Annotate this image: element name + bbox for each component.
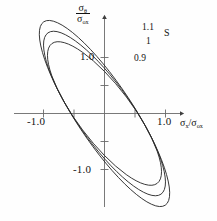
- plot-canvas: [0, 0, 217, 221]
- axis-group: [14, 17, 182, 207]
- x-tick-label-neg-1: -1.0: [27, 116, 45, 127]
- series-symbol-label: S: [164, 28, 170, 38]
- x-axis-title: σx/σox: [180, 118, 203, 128]
- y-axis-title: σθ σox: [76, 3, 90, 24]
- y-tick-label-pos-1: 1.0: [80, 51, 94, 62]
- interaction-curve-figure: σθ σox σx/σox -1.0 1.0 1.0 -1.0 1.1 S 1 …: [0, 0, 217, 221]
- x-tick-label-pos-1: 1.0: [157, 116, 171, 127]
- curve-label-0-9: 0.9: [134, 54, 146, 64]
- y-tick-label-neg-1: -1.0: [73, 164, 91, 175]
- curve-label-1: 1: [146, 37, 151, 47]
- curve-label-1-1: 1.1: [142, 23, 154, 33]
- y-axis-title-denominator: σox: [76, 14, 90, 24]
